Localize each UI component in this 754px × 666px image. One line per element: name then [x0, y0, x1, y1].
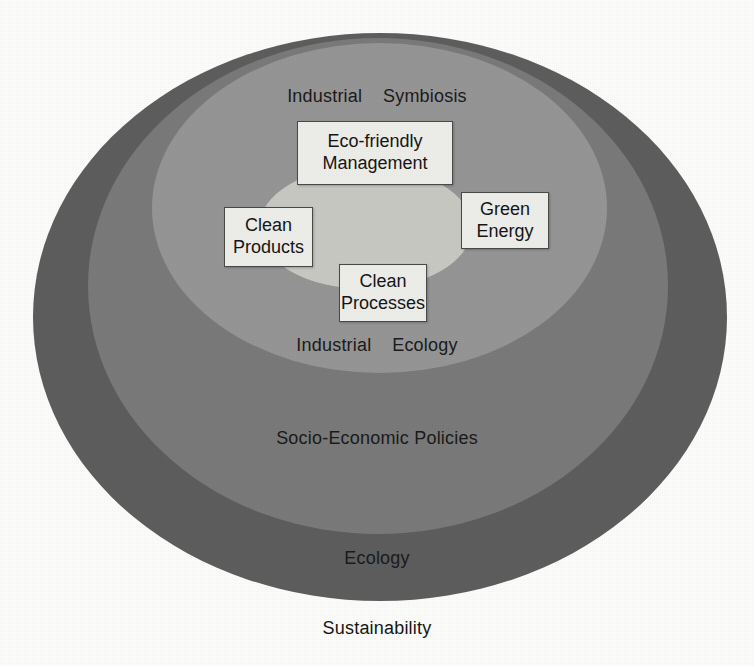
diagram-outer-label-sustainability: Sustainability [0, 619, 754, 639]
ring-label-industrial-symbiosis: Industrial Symbiosis [0, 87, 754, 107]
ring-label-socio-economic-policies: Socio-Economic Policies [0, 429, 754, 449]
node-green-energy: Green Energy [461, 192, 549, 249]
node-clean-processes: Clean Processes [339, 264, 427, 322]
ring-label-ecology: Ecology [0, 549, 754, 569]
node-eco-friendly-management: Eco-friendly Management [297, 121, 453, 185]
node-clean-products: Clean Products [224, 207, 313, 267]
ring-label-industrial-ecology: Industrial Ecology [0, 336, 754, 356]
diagram-canvas: Industrial Symbiosis Industrial Ecology … [0, 0, 754, 666]
